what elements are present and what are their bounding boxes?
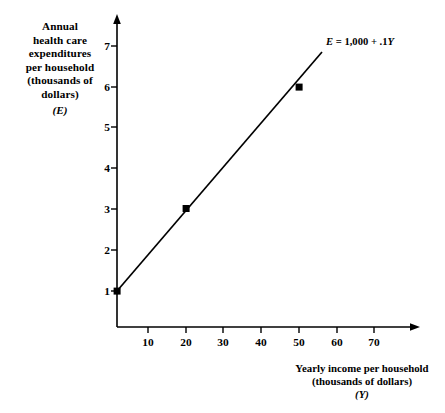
data-point-marker <box>296 84 303 91</box>
data-point-marker <box>114 288 121 295</box>
x-axis-arrowhead-icon <box>410 323 420 331</box>
data-point-marker <box>183 205 190 212</box>
expenditure-line <box>117 52 322 291</box>
chart-figure: Annual health care expenditures per hous… <box>0 0 445 413</box>
plot-area <box>0 0 445 413</box>
y-axis-arrowhead-icon <box>113 14 121 24</box>
